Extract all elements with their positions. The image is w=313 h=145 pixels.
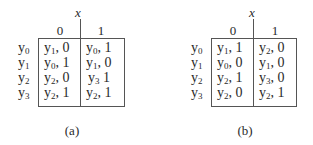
input-variable-label: x — [249, 6, 255, 19]
row-label-y3: y3 — [191, 86, 203, 103]
state-table-b: x 0 1 y0 y1 y2 y3 y1, 1 y0, 0 y2, 1 y2, … — [0, 0, 313, 145]
table-cell: y2, 0 — [217, 86, 243, 103]
table-cell: y2, 1 — [259, 86, 285, 103]
figure-caption: (b) — [231, 124, 259, 137]
column-header-0: 0 — [225, 24, 241, 37]
column-header-1: 1 — [267, 24, 283, 37]
